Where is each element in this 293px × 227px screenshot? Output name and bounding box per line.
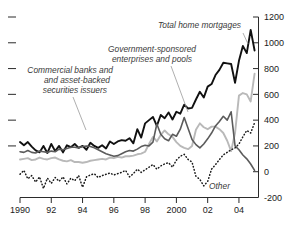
x-tick-label-2002: 02 bbox=[203, 205, 213, 215]
annotation-labels: Total home mortgages Government-sponsore… bbox=[27, 20, 241, 191]
leader-total-home-mortgages bbox=[243, 33, 248, 44]
y-tick-label-1200: 1200 bbox=[264, 12, 284, 22]
y-tick-label-1000: 1000 bbox=[264, 38, 284, 48]
y-axis-left-ticks bbox=[8, 17, 16, 146]
y-axis-right: 120010008006004002000-200 bbox=[253, 12, 284, 203]
x-axis-ticks bbox=[20, 198, 239, 204]
x-tick-label-1994: 94 bbox=[78, 205, 88, 215]
leader-commercial-banks bbox=[73, 97, 86, 130]
x-tick-label-1996: 96 bbox=[109, 205, 119, 215]
y-tick-label-200: 200 bbox=[264, 141, 279, 151]
y-tick-label-800: 800 bbox=[264, 64, 279, 74]
commercial-banks-label-line1: Commercial banks and bbox=[27, 65, 113, 75]
total-home-mortgages-label: Total home mortgages bbox=[158, 20, 242, 30]
y-tick-label-600: 600 bbox=[264, 90, 279, 100]
x-tick-label-2000: 2000 bbox=[166, 205, 186, 215]
series-commercial-banks-and-asset-backed-securities-issuers bbox=[20, 112, 255, 171]
y-axis-tick-labels: 120010008006004002000-200 bbox=[264, 12, 284, 203]
gse-and-pools-label-line1: Government-sponsored bbox=[108, 44, 196, 54]
x-tick-label-2004: 04 bbox=[234, 205, 244, 215]
commercial-banks-label-line3: securities issuers bbox=[43, 85, 108, 95]
chart-container: 120010008006004002000-200 19909294969820… bbox=[0, 0, 293, 227]
y-tick-label-400: 400 bbox=[264, 115, 279, 125]
x-tick-label-1992: 92 bbox=[46, 205, 56, 215]
x-axis-tick-labels: 19909294969820000204 bbox=[10, 205, 244, 215]
commercial-banks-label-line2: and asset-backed bbox=[44, 75, 110, 85]
leader-gse-and-pools bbox=[171, 66, 188, 112]
x-tick-label-1998: 98 bbox=[140, 205, 150, 215]
x-tick-label-1990: 1990 bbox=[10, 205, 30, 215]
gse-and-pools-label-line2: enterprises and pools bbox=[112, 54, 193, 64]
line-chart: 120010008006004002000-200 19909294969820… bbox=[0, 0, 293, 227]
x-axis: 19909294969820000204 bbox=[10, 198, 259, 216]
other-label: Other bbox=[209, 181, 231, 191]
y-tick-label-0: 0 bbox=[264, 167, 269, 177]
y-tick-label--200: -200 bbox=[264, 193, 282, 203]
